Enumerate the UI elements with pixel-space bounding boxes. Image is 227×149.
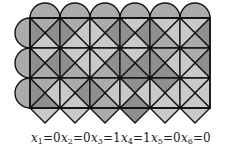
tile xyxy=(180,18,210,48)
bottom-diamond-point xyxy=(60,108,90,123)
bottom-diamond-point xyxy=(90,108,120,123)
top-semicircle-cap xyxy=(150,3,180,18)
tile xyxy=(30,48,60,78)
left-semicircle-cap xyxy=(15,78,30,108)
tile xyxy=(180,78,210,108)
tiling-diagram: x1=0x2=0x3=1x4=1x5=0x6=0 xyxy=(0,0,227,149)
tile xyxy=(90,48,120,78)
tile xyxy=(180,48,210,78)
top-semicircle-cap xyxy=(60,3,90,18)
tile xyxy=(90,18,120,48)
variable-labels: x1=0x2=0x3=1x4=1x5=0x6=0 xyxy=(31,131,211,146)
tile xyxy=(120,78,150,108)
tile xyxy=(150,18,180,48)
tile xyxy=(120,18,150,48)
top-semicircle-cap xyxy=(90,3,120,18)
left-semicircle-cap xyxy=(15,48,30,78)
top-semicircle-cap xyxy=(120,3,150,18)
bottom-diamonds xyxy=(30,108,210,123)
left-semicircle-cap xyxy=(15,18,30,48)
top-semicircle-cap xyxy=(180,3,210,18)
bottom-diamond-point xyxy=(120,108,150,123)
top-semicircle-cap xyxy=(30,3,60,18)
bottom-diamond-point xyxy=(150,108,180,123)
variable-label: x1=0 xyxy=(31,131,61,146)
variable-label: x3=1 xyxy=(91,131,121,146)
variable-label: x2=0 xyxy=(61,131,91,146)
tile xyxy=(60,78,90,108)
tile xyxy=(150,48,180,78)
tile xyxy=(60,48,90,78)
tile xyxy=(60,18,90,48)
tile xyxy=(30,18,60,48)
tile xyxy=(30,78,60,108)
tile-grid xyxy=(30,18,210,108)
bottom-diamond-point xyxy=(180,108,210,123)
bottom-diamond-point xyxy=(30,108,60,123)
tile xyxy=(150,78,180,108)
variable-label: x6=0 xyxy=(181,131,211,146)
tile xyxy=(120,48,150,78)
variable-label: x5=0 xyxy=(151,131,181,146)
variable-label: x4=1 xyxy=(121,131,151,146)
tile xyxy=(90,78,120,108)
